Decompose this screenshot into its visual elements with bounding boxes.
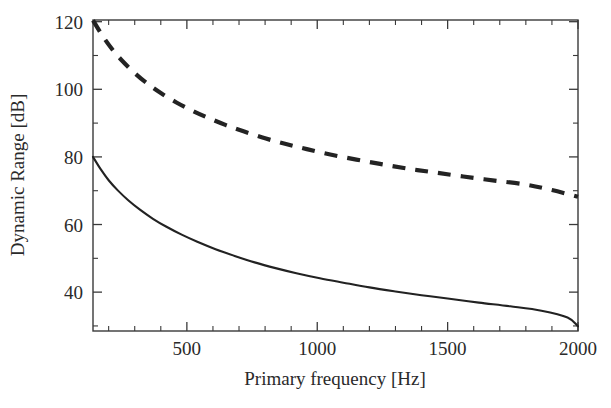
y-tick-label: 120 (55, 12, 84, 33)
data-series-group (93, 20, 578, 326)
x-axis-minor-ticks (109, 20, 552, 331)
x-axis-title: Primary frequency [Hz] (244, 368, 425, 389)
x-tick-label: 1000 (298, 338, 336, 359)
y-tick-label: 100 (55, 79, 84, 100)
y-axis-title: Dynamic Range [dB] (7, 94, 28, 257)
lower-solid-curve (93, 157, 578, 326)
x-axis-major-ticks (187, 20, 578, 331)
x-tick-label: 500 (173, 338, 202, 359)
y-axis-tick-labels: 406080100120 (55, 12, 84, 303)
x-axis-tick-labels: 500100015002000 (173, 338, 597, 359)
y-tick-label: 80 (64, 147, 83, 168)
x-tick-label: 2000 (559, 338, 597, 359)
x-tick-label: 1500 (429, 338, 467, 359)
upper-dashed-curve (93, 20, 578, 196)
plot-frame (93, 20, 578, 331)
chart-canvas: 500100015002000 406080100120 Primary fre… (0, 0, 611, 408)
y-axis-minor-ticks (93, 55, 578, 325)
chart-figure: 500100015002000 406080100120 Primary fre… (0, 0, 611, 408)
y-tick-label: 40 (64, 282, 83, 303)
y-tick-label: 60 (64, 215, 83, 236)
